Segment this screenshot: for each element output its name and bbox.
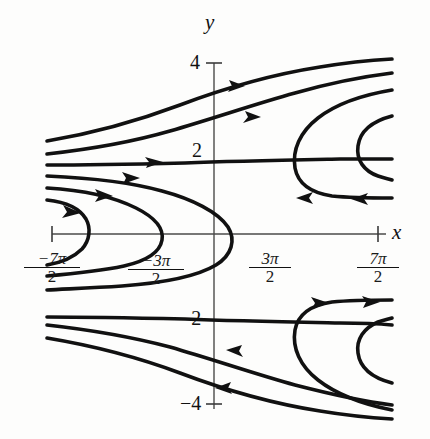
x-axis-label: x: [392, 222, 401, 243]
curve-upper-loop-2: [358, 116, 392, 180]
x-tick-numerator: 3π: [249, 250, 291, 267]
curve-lower-outer-1: [47, 338, 392, 419]
x-tick-denominator: 2: [357, 267, 399, 285]
figure-container: y x 4 2 −2 −4 −7π 2 −3π 2 3π 2 7π 2: [0, 0, 430, 439]
flow-arrow-11: [226, 345, 243, 357]
x-tick-denominator: 2: [249, 267, 291, 285]
curve-upper-outer-2: [47, 73, 392, 154]
flow-arrow-2: [243, 111, 261, 123]
y-tick-label-4: 4: [190, 52, 200, 72]
y-axis-label: y: [205, 12, 214, 33]
x-tick-numerator: −7π: [24, 250, 80, 267]
flow-arrow-3: [296, 192, 313, 204]
flow-arrow-9: [311, 297, 329, 309]
phase-portrait-plot: [0, 0, 430, 439]
y-tick-label-minus-2: −2: [180, 308, 201, 328]
x-tick-denominator: 2: [24, 267, 80, 285]
curve-lower-loop-1: [294, 300, 392, 410]
x-tick-label-3pi-over-2: 3π 2: [249, 250, 291, 286]
solution-curves-group: [47, 59, 392, 419]
x-tick-label-7pi-over-2: 7π 2: [357, 250, 399, 286]
x-tick-label-minus-7pi-over-2: −7π 2: [24, 250, 80, 286]
curve-upper-outer-1: [47, 59, 392, 141]
x-tick-numerator: 7π: [357, 250, 399, 267]
y-tick-label-minus-4: −4: [180, 393, 201, 413]
flow-arrow-12: [215, 382, 232, 394]
x-tick-numerator: −3π: [128, 252, 184, 269]
x-tick-denominator: 2: [128, 269, 184, 287]
flow-arrow-6: [122, 172, 140, 184]
curve-upper-loop-1: [294, 90, 392, 198]
x-tick-label-minus-3pi-over-2: −3π 2: [128, 252, 184, 288]
curve-lower-loop-2: [358, 318, 392, 383]
curve-left-band-2: [47, 317, 392, 325]
y-tick-label-2: 2: [192, 140, 202, 160]
curve-left-band-1: [47, 159, 392, 165]
